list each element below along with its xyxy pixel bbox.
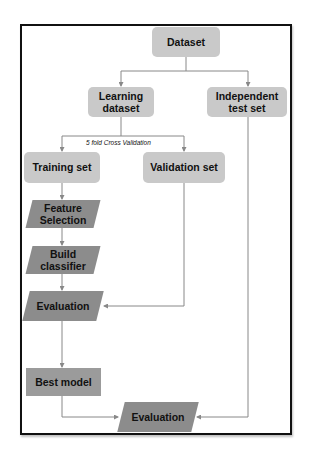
node-dataset-label: Dataset	[167, 36, 205, 49]
node-feature-selection: Feature Selection	[29, 200, 97, 228]
node-best-model: Best model	[26, 368, 101, 396]
node-validation-set-label: Validation set	[150, 161, 218, 174]
node-build-classifier: Build classifier	[29, 246, 97, 274]
node-training-set: Training set	[24, 152, 100, 183]
node-dataset: Dataset	[152, 27, 220, 57]
node-feature-selection-label: Feature Selection	[38, 202, 88, 227]
node-learning-dataset: Learning dataset	[88, 87, 154, 117]
node-best-model-label: Best model	[35, 376, 92, 389]
node-independent-test-set-label: Independent test set	[207, 90, 287, 115]
node-evaluation-cv-label: Evaluation	[36, 300, 89, 313]
node-independent-test-set: Independent test set	[207, 87, 287, 117]
node-validation-set: Validation set	[143, 152, 225, 183]
cross-validation-label: 5 fold Cross Validation	[86, 139, 151, 146]
node-training-set-label: Training set	[33, 161, 92, 174]
node-learning-dataset-label: Learning dataset	[88, 90, 154, 115]
node-evaluation-final: Evaluation	[121, 402, 195, 432]
node-build-classifier-label: Build classifier	[39, 248, 87, 273]
node-evaluation-cv: Evaluation	[26, 291, 100, 321]
node-evaluation-final-label: Evaluation	[131, 411, 184, 424]
